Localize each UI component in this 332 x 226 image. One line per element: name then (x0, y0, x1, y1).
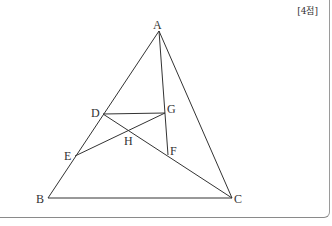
label-D: D (91, 106, 100, 120)
segment-EG (75, 113, 165, 156)
label-A: A (153, 18, 162, 32)
segment-DG (103, 113, 165, 114)
label-F: F (170, 144, 177, 158)
segments (48, 31, 232, 198)
label-C: C (234, 192, 242, 206)
label-E: E (64, 149, 71, 163)
label-G: G (167, 102, 176, 116)
segment-DC (103, 114, 232, 198)
geometry-diagram: A B C D E F G H (0, 0, 332, 226)
label-B: B (36, 192, 44, 206)
point-labels: A B C D E F G H (36, 18, 242, 206)
label-H: H (124, 134, 133, 148)
